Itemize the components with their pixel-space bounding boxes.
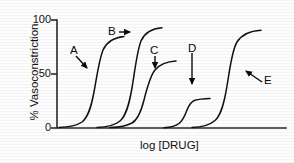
curve-e <box>192 30 261 127</box>
curve-label-a: A <box>70 44 78 56</box>
axis-path <box>57 20 286 128</box>
curve-label-c: C <box>150 44 158 56</box>
curve-a <box>59 37 124 128</box>
curve-c <box>110 61 176 128</box>
x-axis-title: log [DRUG] <box>140 139 199 151</box>
annotation-arrows <box>76 32 262 84</box>
curve-label-e: E <box>264 74 272 86</box>
arrow-e-icon <box>246 71 262 82</box>
curve-label-b: B <box>108 25 116 37</box>
curve-b <box>97 28 162 128</box>
arrow-a-icon <box>76 56 87 68</box>
dose-response-figure: 100 50 0 % Vasoconstriction log [DRUG] A… <box>0 0 294 163</box>
y-axis-title: % Vasoconstriction <box>28 2 40 142</box>
curve-label-d: D <box>188 42 196 54</box>
curve-group <box>59 28 261 128</box>
curve-d <box>164 98 210 127</box>
